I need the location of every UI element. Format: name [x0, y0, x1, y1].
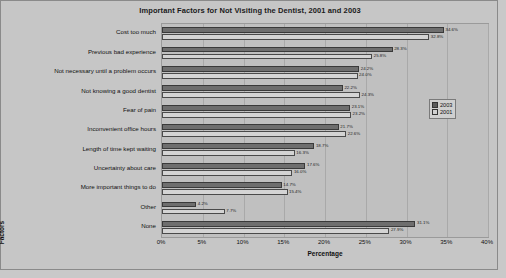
x-axis-tick-label: 35% [440, 239, 452, 245]
category-label: Not knowing a good dentist [81, 88, 156, 94]
bar-2003 [162, 182, 282, 188]
bar-2001 [162, 228, 389, 234]
category-label: Inconvenient office hours [87, 126, 156, 132]
bar-2003 [162, 66, 359, 72]
bar-value-label-2001: 32.8% [431, 35, 443, 39]
bar-value-label-2001: 7.7% [226, 209, 236, 213]
legend-item-2001: 2001 [432, 109, 452, 116]
chart-legend: 2003 2001 [429, 99, 456, 119]
chart-frame: Important Factors for Not Visiting the D… [0, 0, 498, 270]
bar-value-label-2003: 4.2% [198, 202, 208, 206]
bar-2001 [162, 112, 351, 118]
bar-value-label-2001: 24.0% [359, 73, 371, 77]
category-label: More important things to do [81, 184, 156, 190]
x-axis-tick-label: 5% [197, 239, 206, 245]
legend-label-2003: 2003 [440, 102, 452, 109]
bar-2001 [162, 54, 372, 60]
bar-value-label-2003: 28.3% [394, 47, 406, 51]
x-axis-tick-label: 10% [236, 239, 248, 245]
bar-2003 [162, 124, 339, 130]
category-label: Previous bad experience [88, 49, 156, 55]
bar-value-label-2001: 16.0% [294, 170, 306, 174]
bar-2003 [162, 202, 196, 208]
category-label: Other [141, 204, 156, 210]
bar-2003 [162, 27, 444, 33]
bar-value-label-2001: 25.8% [374, 54, 386, 58]
bar-2001 [162, 131, 346, 137]
legend-swatch-2003-icon [432, 102, 438, 108]
bar-value-label-2003: 23.1% [352, 105, 364, 109]
grid-line [407, 24, 408, 237]
category-label: Length of time kept waiting [82, 146, 156, 152]
bar-value-label-2003: 24.2% [361, 67, 373, 71]
legend-swatch-2001-icon [432, 109, 438, 115]
x-axis-tick-label: 25% [359, 239, 371, 245]
bar-2003 [162, 221, 415, 227]
bar-value-label-2001: 16.3% [296, 151, 308, 155]
bar-value-label-2003: 14.7% [283, 183, 295, 187]
bar-value-label-2003: 34.6% [445, 28, 457, 32]
category-label: None [141, 223, 156, 229]
legend-label-2001: 2001 [440, 109, 452, 116]
category-label: Not necessary until a problem occurs [54, 68, 156, 74]
bar-2001 [162, 34, 429, 40]
category-labels: Cost too muchPrevious bad experienceNot … [1, 23, 159, 238]
bar-2001 [162, 150, 295, 156]
chart-title: Important Factors for Not Visiting the D… [1, 6, 499, 15]
category-label: Uncertainty about care [94, 165, 156, 171]
category-label: Fear of pain [123, 107, 156, 113]
x-axis-tick-label: 40% [481, 239, 493, 245]
bar-value-label-2003: 17.6% [307, 163, 319, 167]
bar-value-label-2003: 21.7% [340, 125, 352, 129]
x-axis-tick-label: 30% [399, 239, 411, 245]
bar-value-label-2003: 31.1% [417, 221, 429, 225]
x-axis-tick-label: 20% [318, 239, 330, 245]
bar-2003 [162, 47, 393, 53]
bar-value-label-2001: 15.4% [289, 190, 301, 194]
bar-2003 [162, 105, 350, 111]
grid-line [488, 24, 489, 237]
bar-value-label-2001: 22.6% [348, 132, 360, 136]
bar-2003 [162, 163, 305, 169]
bar-2001 [162, 73, 358, 79]
bar-2001 [162, 92, 360, 98]
bar-2001 [162, 209, 225, 215]
bar-2003 [162, 85, 343, 91]
x-axis-tick-label: 15% [277, 239, 289, 245]
bar-value-label-2001: 23.2% [353, 112, 365, 116]
bar-value-label-2003: 22.2% [344, 86, 356, 90]
category-label: Cost too much [116, 29, 156, 35]
legend-item-2003: 2003 [432, 102, 452, 109]
bar-2001 [162, 170, 292, 176]
bar-value-label-2001: 27.9% [391, 228, 403, 232]
bar-2001 [162, 189, 288, 195]
bar-value-label-2001: 24.3% [362, 93, 374, 97]
x-axis-title: Percentage [161, 250, 489, 257]
grid-line [447, 24, 448, 237]
bar-2003 [162, 143, 314, 149]
plot-area: 34.6%32.8%28.3%25.8%24.2%24.0%22.2%24.3%… [161, 23, 489, 238]
x-axis-tick-label: 0% [157, 239, 166, 245]
bar-value-label-2003: 18.7% [316, 144, 328, 148]
